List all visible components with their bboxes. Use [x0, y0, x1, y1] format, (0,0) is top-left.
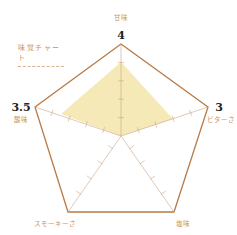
radar-chart: 甘味 4 3 ビターさ 3.5 酸味 スモーキーさ 塩味 — [0, 0, 237, 235]
value-sourness: 3.5 — [11, 101, 30, 114]
value-sweetness: 4 — [117, 29, 125, 42]
label-bitterness: ビターさ — [207, 115, 235, 124]
label-saltiness: 塩味 — [176, 219, 190, 228]
value-bitterness: 3 — [215, 101, 223, 114]
label-smokiness: スモーキーさ — [34, 220, 76, 228]
label-sourness: 酸味 — [14, 115, 28, 124]
label-sweetness: 甘味 — [114, 13, 128, 22]
